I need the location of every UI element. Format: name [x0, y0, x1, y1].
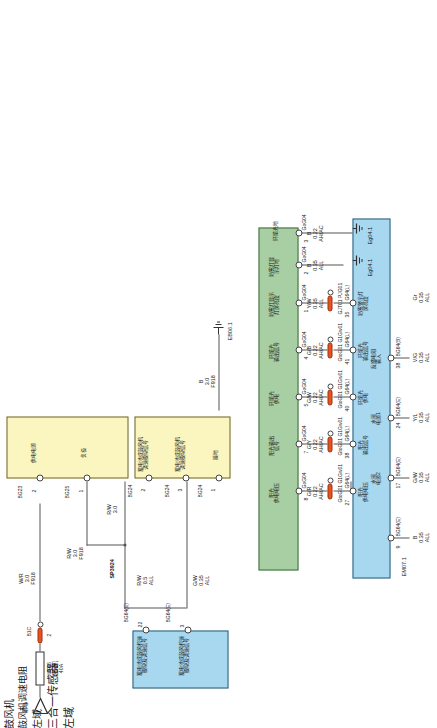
- ground-symbol-eg04-2: [352, 220, 366, 236]
- splice-point: [123, 544, 126, 547]
- pin-blower-1[interactable]: [83, 475, 90, 482]
- inline-connector-ring: [37, 621, 43, 627]
- pin-connector-code: G64(L): [343, 331, 349, 347]
- wire-label-market: AH/AC: [318, 214, 324, 252]
- pin-name: 水阀 电源1: [370, 398, 381, 438]
- wire-label-market: ALL: [424, 458, 430, 496]
- inline-connector-ring: [327, 430, 333, 436]
- wire-label-market: AH/AC: [318, 425, 324, 463]
- pin-name: 蓄电池或鼓风机速 模块及调速信号: [178, 634, 189, 676]
- pin-number: 3: [176, 488, 182, 491]
- pin-connector-code: BG64(B): [394, 337, 400, 356]
- pin-connector-code: G64(L): [343, 284, 349, 300]
- wire-seg: [39, 685, 40, 697]
- wire-label-market: AH/AC: [318, 331, 324, 369]
- pin-resistor-2[interactable]: [145, 475, 152, 482]
- pin-ld-22[interactable]: [142, 627, 149, 634]
- wire-seg: [393, 417, 409, 418]
- connector-code: GJT01 PJG01: [336, 282, 342, 314]
- wire-seg: [218, 334, 219, 410]
- block-left-domain-main-title: 左域: [59, 0, 75, 728]
- pin-connector-code: BG25: [63, 485, 69, 498]
- ground-symbol-eg04-1: [352, 252, 366, 268]
- inline-connector[interactable]: [327, 342, 332, 358]
- source-label-constant: 常电: [22, 702, 28, 712]
- pin-name: 防雾警示灯 屏亮度: [357, 282, 368, 324]
- pin-sensor-1[interactable]: [295, 300, 302, 307]
- pin-name: 负极: [80, 430, 85, 474]
- block-blower-title: 鼓风机: [0, 0, 15, 728]
- power-source-triangle-1: [32, 696, 48, 714]
- pin-sensor-7[interactable]: [295, 441, 302, 448]
- pin-number: 24: [394, 422, 400, 428]
- inline-connector[interactable]: [327, 389, 332, 405]
- pin-connector-code: BG24: [196, 484, 202, 497]
- pin-number: 40: [343, 405, 349, 411]
- wire-label-market: AH/AC: [318, 472, 324, 510]
- inline-connector-b1c[interactable]: [37, 627, 42, 643]
- connector-code: B1C: [25, 626, 31, 636]
- wire-label-market: ALL: [424, 338, 430, 376]
- pin-ldm-24[interactable]: [387, 415, 394, 422]
- pin-resistor-3[interactable]: [182, 475, 189, 482]
- pin-sensor-4[interactable]: [295, 347, 302, 354]
- wire-label-market: ALL: [318, 284, 324, 322]
- pin-sensor-2[interactable]: [295, 262, 302, 269]
- pin-number: 41: [343, 358, 349, 364]
- pin-number: 1: [209, 488, 215, 491]
- pin-ldm-17[interactable]: [387, 475, 394, 482]
- pin-ldm-9[interactable]: [387, 535, 394, 542]
- pin-ldm-38b[interactable]: [387, 355, 394, 362]
- pin-name: 环境光 供电: [357, 376, 368, 418]
- wire-seg: [333, 349, 350, 350]
- pin-name: 接地: [212, 434, 217, 474]
- wire-seg: [39, 503, 40, 621]
- pin-name: 阳光 输出信号: [357, 423, 368, 465]
- pin-name: 防雾灯显示 灯屏亮度: [268, 282, 279, 326]
- pin-number: 38: [394, 362, 400, 368]
- inline-connector-gjt01[interactable]: [327, 295, 332, 311]
- pin-connector-code: BG64(E): [394, 517, 400, 536]
- pin-sensor-3[interactable]: [295, 230, 302, 237]
- pin-name: 蓄电池或鼓风机 调速模块信号: [137, 434, 148, 474]
- connector-code: GtoG01 G1Gw01: [336, 322, 342, 361]
- pin-connector-code: BG64(E): [394, 457, 400, 476]
- wire-label-market: ALL: [204, 560, 210, 600]
- pin-name: 供电电源: [30, 430, 35, 474]
- connector-pin-number: 2: [45, 633, 51, 636]
- connector-code: GtoG01 G1Gw01: [336, 369, 342, 408]
- connector-code: GtoG01 G1Gw01: [336, 463, 342, 502]
- pin-ldm-27[interactable]: [349, 488, 356, 495]
- pin-connector-code: GoG04: [300, 246, 306, 262]
- pin-name: 水阀 电源2: [370, 458, 381, 498]
- pin-ldm-40[interactable]: [349, 394, 356, 401]
- wire-seg: [124, 607, 186, 608]
- pin-connector-code: BG23: [16, 485, 22, 498]
- wire-seg: [186, 481, 187, 608]
- pin-number: 9: [394, 545, 400, 548]
- inline-connector-ring: [327, 289, 333, 295]
- inline-connector-ring: [327, 477, 333, 483]
- pin-sensor-8[interactable]: [295, 488, 302, 495]
- inline-connector[interactable]: [327, 483, 332, 499]
- wire-label-code: F918: [78, 526, 84, 580]
- wire-seg: [86, 481, 87, 545]
- pin-name: 防雾灯显 示灯地: [268, 244, 279, 288]
- inline-connector[interactable]: [327, 436, 332, 452]
- pin-ldm-38[interactable]: [349, 441, 356, 448]
- pin-connector-code: BG24: [126, 484, 132, 497]
- pin-blower-2[interactable]: [36, 475, 43, 482]
- pin-sensor-5[interactable]: [295, 394, 302, 401]
- pin-ldm-35[interactable]: [349, 300, 356, 307]
- pin-connector-code: G64(L): [343, 378, 349, 394]
- pin-connector-code: BG64(E): [164, 603, 170, 622]
- pin-ldm-41[interactable]: [349, 347, 356, 354]
- pin-connector-code: BG64(E): [122, 603, 128, 622]
- wire-seg: [393, 357, 409, 358]
- ground-label-eb06: EB06.1: [226, 322, 232, 340]
- pin-ld-3[interactable]: [184, 627, 191, 634]
- pin-resistor-1[interactable]: [215, 475, 222, 482]
- block-blower-resistor-title: 鼓风机调速电阻: [15, 0, 28, 728]
- pin-name: 环境光 输出信号: [268, 329, 279, 373]
- ground-label-eg04-2: Eg04.1: [366, 226, 372, 244]
